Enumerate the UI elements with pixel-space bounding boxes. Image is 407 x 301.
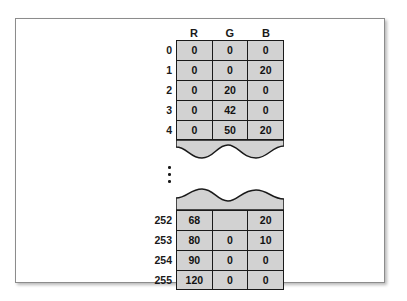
table-top-block: 0 0 0 0 1 0 0 20 2 0 20 [161,40,284,140]
cell-r: 120 [177,271,213,289]
cell-g: 42 [213,101,249,120]
row-index-label: 252 [147,210,176,230]
ellipsis-dot [168,166,171,169]
column-header-r: R [176,27,212,40]
column-header-g: G [212,27,248,40]
table-row: 1 0 0 20 [161,60,284,80]
cell-g: 20 [213,81,249,100]
row-cells: 90 0 0 [176,250,284,270]
row-index-label: 3 [147,100,176,120]
cell-g: 0 [213,41,249,60]
cell-g: 0 [213,271,249,289]
row-index-label: 2 [147,80,176,100]
cell-b: 20 [248,121,283,139]
table-row: 252 68 20 [161,210,284,230]
rgb-lookup-table-figure: R G B 0 0 0 0 1 0 0 20 [161,27,286,290]
table-row: 253 80 0 10 [161,230,284,250]
row-index-label: 254 [147,250,176,270]
wavy-break-top-icon [176,140,284,162]
cell-r: 0 [177,81,213,100]
row-cells: 120 0 0 [176,270,284,290]
table-row: 0 0 0 0 [161,40,284,60]
cell-r: 68 [177,211,213,230]
row-cells: 0 0 0 [176,40,284,60]
cell-r: 0 [177,41,213,60]
cell-g [213,211,249,230]
table-bottom-block: 252 68 20 253 80 0 10 254 90 [161,210,284,290]
cell-r: 90 [177,251,213,270]
table-row: 254 90 0 0 [161,250,284,270]
ellipsis-dot [168,180,171,183]
cell-b: 10 [248,231,283,250]
cell-b: 0 [248,251,283,270]
column-header-b: B [248,27,284,40]
row-cells: 68 20 [176,210,284,230]
wavy-break-bottom-icon [176,188,284,210]
cell-g: 0 [213,251,249,270]
row-cells: 0 20 0 [176,80,284,100]
cell-b: 20 [248,211,283,230]
cell-r: 80 [177,231,213,250]
cell-g: 0 [213,231,249,250]
cell-b: 0 [248,81,283,100]
row-index-label: 0 [147,40,176,60]
ellipsis-dot [168,173,171,176]
table-row: 255 120 0 0 [161,270,284,290]
column-header-row: R G B [176,27,284,40]
row-cells: 0 50 20 [176,120,284,140]
cell-g: 50 [213,121,249,139]
table-row: 3 0 42 0 [161,100,284,120]
row-cells: 0 42 0 [176,100,284,120]
row-index-label: 4 [147,120,176,140]
cell-r: 0 [177,101,213,120]
cell-b: 0 [248,101,283,120]
cell-b: 0 [248,271,283,289]
cell-r: 0 [177,61,213,80]
row-cells: 80 0 10 [176,230,284,250]
row-cells: 0 0 20 [176,60,284,80]
vertical-ellipsis [161,162,284,188]
row-index-label: 1 [147,60,176,80]
table-row: 2 0 20 0 [161,80,284,100]
row-index-label: 253 [147,230,176,250]
cell-b: 20 [248,61,283,80]
table-row: 4 0 50 20 [161,120,284,140]
cell-r: 0 [177,121,213,139]
figure-panel: R G B 0 0 0 0 1 0 0 20 [15,18,385,283]
row-index-label: 255 [147,270,176,290]
cell-g: 0 [213,61,249,80]
cell-b: 0 [248,41,283,60]
